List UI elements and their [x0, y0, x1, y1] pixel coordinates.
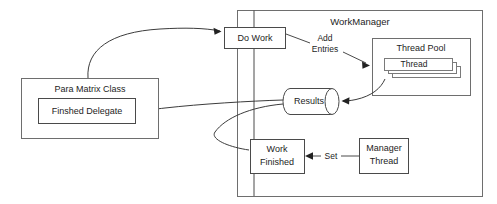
results-label: Results	[294, 96, 325, 106]
thread-label: Thread	[401, 59, 428, 69]
work-finished-label-line2: Finished	[260, 157, 294, 167]
add-entries-label-line2: Entries	[312, 44, 338, 54]
arrowhead-do-work-in	[214, 28, 222, 35]
add-entries-label-line1: Add	[317, 33, 332, 43]
set-label: Set	[325, 151, 338, 161]
manager-thread-label-line2: Thread	[370, 156, 399, 166]
para-matrix-class-label: Para Matrix Class	[54, 84, 126, 94]
thread-pool-label: Thread Pool	[396, 43, 445, 53]
diagram-canvas: WorkManager Do Work Add Entries Thread P…	[0, 0, 497, 204]
manager-thread-label-line1: Manager	[366, 143, 402, 153]
work-finished-label-line1: Work	[267, 144, 288, 154]
do-work-label: Do Work	[238, 33, 273, 43]
connector-para-matrix-to-do-work	[88, 28, 220, 78]
workmanager-architecture-diagram: WorkManager Do Work Add Entries Thread P…	[0, 0, 497, 204]
workmanager-label: WorkManager	[330, 16, 390, 27]
finshed-delegate-label: Finshed Delegate	[52, 106, 123, 116]
